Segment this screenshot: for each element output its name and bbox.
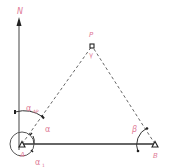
label-beta: β: [131, 125, 137, 134]
label-alpha: α: [45, 125, 50, 134]
svg-text:AP: AP: [33, 109, 39, 114]
diagram-canvas: N P γ A B α AP α α 1 β: [0, 0, 171, 168]
svg-text:1: 1: [42, 163, 45, 168]
station-marker-a: [19, 142, 25, 148]
north-arrow-icon: [17, 17, 22, 26]
label-point-p: P: [89, 31, 94, 39]
label-point-a: A: [19, 151, 25, 159]
label-point-b: B: [153, 152, 158, 160]
dashed-line-ap: [22, 46, 92, 144]
station-marker-b: [152, 142, 158, 148]
svg-text:α: α: [26, 104, 31, 113]
intersection-diagram: N P γ A B α AP α α 1 β: [0, 0, 171, 168]
label-alpha-1: α 1: [35, 158, 45, 168]
label-alpha-ap: α AP: [26, 104, 39, 114]
point-p-marker: [90, 44, 94, 48]
label-north: N: [17, 7, 23, 16]
label-gamma: γ: [89, 51, 93, 59]
angle-arc-beta: [137, 128, 147, 152]
svg-text:α: α: [35, 158, 40, 167]
